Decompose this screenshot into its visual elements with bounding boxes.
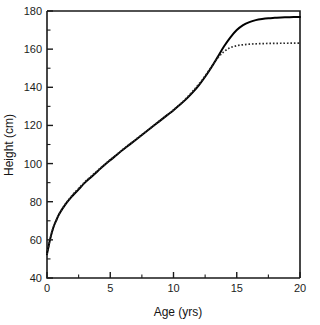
y-tick-label: 40 [30,272,42,284]
y-tick-label: 60 [30,234,42,246]
x-tick-label: 5 [107,282,113,294]
y-tick-label: 80 [30,196,42,208]
y-tick-label: 160 [24,43,42,55]
y-tick-label: 140 [24,81,42,93]
growth-curve-chart: 406080100120140160180 05101520 Height (c… [0,0,320,325]
y-tick-label: 120 [24,119,42,131]
x-axis-title: Age (yrs) [154,305,203,319]
x-tick-label: 10 [167,282,179,294]
y-axis-title: Height (cm) [2,114,16,176]
x-tick-label: 0 [44,282,50,294]
figure-container: 406080100120140160180 05101520 Height (c… [0,0,320,325]
y-tick-label: 180 [24,5,42,17]
y-tick-label: 100 [24,158,42,170]
x-tick-label: 20 [294,282,306,294]
x-tick-label: 15 [231,282,243,294]
